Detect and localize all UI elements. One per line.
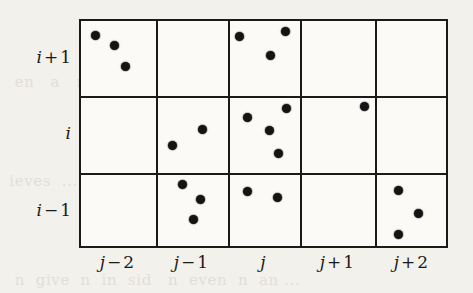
grid-cell-i-jminus1[interactable] [157,97,229,174]
data-point [168,141,177,150]
grid-cell-iplus1-jminus2[interactable] [81,21,157,97]
data-point [121,62,130,71]
cell-grid [79,19,448,248]
data-point [266,51,275,60]
grid-cell-i-jplus1[interactable] [301,97,376,174]
data-point [243,187,252,196]
row-label-axis: i+1ii−1 [0,0,71,293]
data-point [273,193,282,202]
math-number: 1 [343,252,354,272]
row-label-i: i [1,123,71,143]
math-number: 2 [123,252,134,272]
math-operator: + [325,252,343,272]
data-point [360,102,369,111]
grid-cell-iplus1-jplus2[interactable] [376,21,450,97]
math-number: 1 [197,252,208,272]
data-point [189,215,198,224]
col-label-j-minus-2: j−2 [100,252,134,272]
row-label-i-minus-1: i−1 [1,200,71,220]
data-point [282,104,291,113]
grid-cell-iplus1-j[interactable] [229,21,301,97]
grid-cell-i-jminus2[interactable] [81,97,157,174]
col-label-j-plus-1: j+1 [320,252,354,272]
data-point [414,209,423,218]
data-point [235,32,244,41]
math-number: 1 [60,200,71,220]
col-label-j-plus-2: j+2 [394,252,428,272]
math-operator: + [399,252,417,272]
grid-cell-i-j[interactable] [229,97,301,174]
col-label-j: j [260,252,265,272]
data-point [178,180,187,189]
math-operator: − [105,252,123,272]
math-operator: − [42,200,60,220]
row-label-i-plus-1: i+1 [1,47,71,67]
math-operator: − [179,252,197,272]
math-number: 1 [60,47,71,67]
grid-cell-iminus1-jminus1[interactable] [157,174,229,250]
grid-cell-iplus1-jminus1[interactable] [157,21,229,97]
grid-cell-iminus1-jminus2[interactable] [81,174,157,250]
data-point [394,230,403,239]
grid-cell-i-jplus2[interactable] [376,97,450,174]
data-point [274,149,283,158]
math-operator: + [42,47,60,67]
data-point [394,186,403,195]
grid-cell-iminus1-jplus1[interactable] [301,174,376,250]
math-variable: j [260,252,265,272]
math-variable: i [66,123,71,143]
data-point [196,195,205,204]
data-point [265,126,274,135]
data-point [198,125,207,134]
data-point [281,27,290,36]
data-point [243,113,252,122]
grid-cell-iminus1-jplus2[interactable] [376,174,450,250]
math-number: 2 [417,252,428,272]
col-label-j-minus-1: j−1 [174,252,208,272]
data-point [91,31,100,40]
grid-scatter-figure: i+1ii−1 j−2j−1jj+1j+2 [0,0,473,293]
grid-cell-iplus1-jplus1[interactable] [301,21,376,97]
data-point [110,41,119,50]
grid-cell-iminus1-j[interactable] [229,174,301,250]
